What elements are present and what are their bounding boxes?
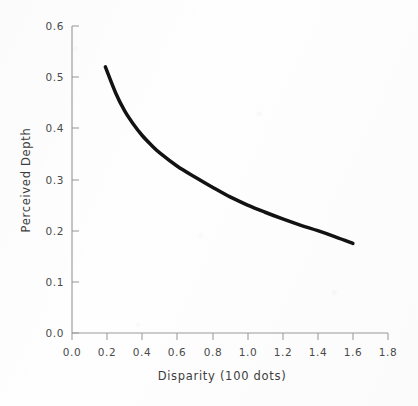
y-tick-label: 0.5 [46, 71, 65, 83]
x-tick-label: 1.8 [379, 346, 398, 358]
x-tick-label: 0.2 [98, 346, 117, 358]
y-tick-label: 0.4 [46, 122, 65, 134]
x-tick-label: 1.6 [344, 346, 363, 358]
x-tick-label: 1.0 [239, 346, 258, 358]
x-tick-label: 0.8 [204, 346, 223, 358]
y-tick-label: 0.1 [46, 276, 65, 288]
y-tick-label: 0.2 [46, 225, 65, 237]
y-tick-label: 0.6 [46, 20, 65, 32]
line-chart: 0.6 0.5 0.4 0.3 0.2 0.1 0.0 0.0 0.2 0.4 … [0, 0, 418, 406]
x-tick-group: 0.0 0.2 0.4 0.6 0.8 1.0 1.2 1.4 1.6 1.8 [63, 333, 398, 358]
y-tick-label: 0.3 [46, 174, 65, 186]
y-axis-title: Perceived Depth [19, 127, 33, 232]
x-tick-label: 1.2 [274, 346, 293, 358]
x-tick-label: 0.6 [168, 346, 187, 358]
y-tick-group: 0.6 0.5 0.4 0.3 0.2 0.1 0.0 [46, 20, 80, 339]
x-tick-label: 1.4 [309, 346, 328, 358]
x-tick-label: 0.4 [133, 346, 152, 358]
data-curve-perceived-depth [105, 67, 353, 244]
x-tick-label: 0.0 [63, 346, 82, 358]
x-axis-title: Disparity (100 dots) [158, 369, 287, 383]
y-tick-label: 0.0 [46, 327, 65, 339]
chart-figure: 0.6 0.5 0.4 0.3 0.2 0.1 0.0 0.0 0.2 0.4 … [0, 0, 418, 406]
